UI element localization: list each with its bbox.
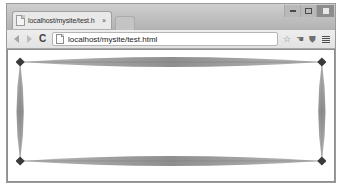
- close-button[interactable]: [316, 5, 334, 17]
- page-viewport: [7, 49, 335, 182]
- screenshot-root: localhost/mysite/test.h ×: [0, 0, 342, 194]
- address-bar-url: localhost/mysite/test.html: [68, 34, 157, 45]
- decorative-frame: [16, 56, 326, 167]
- frame-corner-bottom-right: [317, 156, 326, 165]
- new-tab-button[interactable]: [115, 16, 135, 30]
- back-button[interactable]: [10, 31, 23, 47]
- shield-button[interactable]: ⛊: [306, 31, 319, 47]
- frame-corner-top-right: [317, 58, 326, 67]
- address-bar[interactable]: localhost/mysite/test.html: [52, 32, 278, 46]
- hamburger-menu-icon: [322, 36, 330, 43]
- minimize-icon: [290, 10, 296, 12]
- forward-button[interactable]: [23, 31, 36, 47]
- maximize-icon: [305, 8, 312, 14]
- window-controls: [284, 4, 334, 17]
- maximize-button[interactable]: [300, 5, 316, 17]
- arrow-left-icon: [14, 35, 19, 43]
- frame-corner-top-left: [16, 58, 25, 67]
- close-icon: [323, 8, 329, 14]
- tab-title: localhost/mysite/test.h: [28, 16, 98, 26]
- bookmark-star-icon: ☆: [283, 35, 291, 44]
- tab-strip: localhost/mysite/test.h ×: [7, 4, 335, 29]
- browser-tab[interactable]: localhost/mysite/test.h ×: [12, 11, 112, 29]
- browser-window: localhost/mysite/test.h ×: [6, 3, 336, 183]
- chrome-menu-button[interactable]: [319, 31, 332, 47]
- decorative-frame-svg: [16, 56, 326, 167]
- page-info-icon[interactable]: [56, 34, 64, 44]
- tab-favicon-icon: [16, 15, 25, 26]
- frame-corner-bottom-left: [16, 156, 25, 165]
- arrow-right-icon: [27, 35, 32, 43]
- extension-hand-icon: ☚: [296, 35, 304, 44]
- extension-button[interactable]: ☚: [293, 31, 306, 47]
- minimize-button[interactable]: [284, 5, 300, 17]
- tab-close-icon[interactable]: ×: [100, 17, 108, 25]
- reload-icon: C: [39, 34, 46, 44]
- reload-button[interactable]: C: [36, 31, 49, 47]
- browser-toolbar: C localhost/mysite/test.html ☆ ☚ ⛊: [7, 29, 335, 49]
- bookmark-star-button[interactable]: ☆: [280, 31, 293, 47]
- shield-icon: ⛊: [309, 35, 316, 44]
